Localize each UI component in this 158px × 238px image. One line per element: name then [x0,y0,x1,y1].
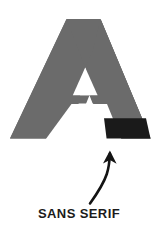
annotation-arrow-graphic [0,0,158,238]
curved-up-arrow-icon [90,151,117,204]
sans-serif-letter-diagram: SANS SERIF [0,0,158,238]
caption-sans-serif: SANS SERIF [0,206,158,221]
